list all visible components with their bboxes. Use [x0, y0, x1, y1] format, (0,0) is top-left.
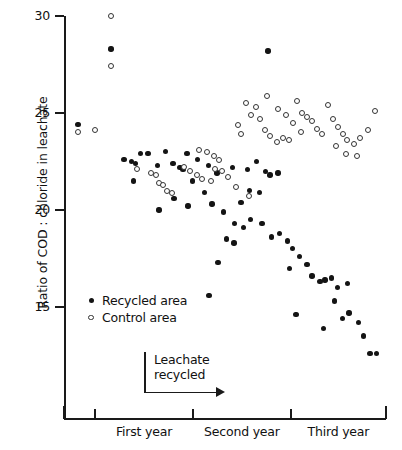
data-point-control	[264, 93, 270, 99]
data-point-recycled	[275, 170, 280, 175]
data-point-recycled	[304, 262, 309, 267]
data-point-control	[267, 133, 273, 139]
x-axis-tick	[63, 406, 65, 419]
data-point-recycled	[145, 151, 150, 156]
data-point-control	[225, 174, 231, 180]
data-point-recycled	[321, 326, 326, 331]
data-point-recycled	[180, 167, 185, 172]
data-point-control	[153, 172, 159, 178]
data-point-recycled	[335, 285, 340, 290]
data-point-control	[299, 110, 305, 116]
data-point-control	[309, 118, 315, 124]
data-point-control	[290, 120, 296, 126]
data-point-recycled	[245, 167, 250, 172]
data-point-control	[304, 114, 310, 120]
data-point-control	[325, 102, 331, 108]
legend-item: Control area	[84, 309, 187, 326]
y-axis-tick-label: 30	[34, 8, 50, 23]
data-point-recycled	[241, 225, 246, 230]
data-point-control	[212, 166, 218, 172]
data-point-recycled	[346, 310, 351, 315]
data-point-recycled	[356, 320, 361, 325]
data-point-control	[262, 127, 268, 133]
annotation-text: Leachate recycled	[154, 353, 210, 382]
data-point-recycled	[155, 163, 160, 168]
data-point-recycled	[329, 275, 334, 280]
data-point-control	[253, 104, 259, 110]
data-point-control	[194, 172, 200, 178]
data-point-recycled	[238, 200, 243, 205]
y-axis-tick	[55, 306, 64, 308]
data-point-recycled	[202, 190, 207, 195]
data-point-control	[233, 184, 239, 190]
x-axis-tick	[290, 409, 292, 419]
data-point-control	[181, 164, 187, 170]
data-point-control	[92, 127, 98, 133]
data-point-recycled	[290, 246, 295, 251]
data-point-recycled	[257, 190, 262, 195]
data-point-control	[314, 126, 320, 132]
data-point-recycled	[177, 165, 182, 170]
data-point-recycled	[156, 207, 161, 212]
data-point-control	[330, 116, 336, 122]
annotation-line-2: recycled	[154, 368, 210, 383]
data-point-control	[238, 131, 244, 137]
data-point-control	[243, 100, 249, 106]
filled-circle-icon	[84, 298, 98, 303]
data-point-recycled	[190, 178, 195, 183]
data-point-control	[344, 137, 350, 143]
data-point-recycled	[269, 234, 274, 239]
data-point-recycled	[309, 273, 314, 278]
x-axis-category-label: First year	[116, 424, 172, 439]
data-point-recycled	[170, 161, 175, 166]
data-point-control	[286, 137, 292, 143]
data-point-recycled	[138, 151, 143, 156]
data-point-control	[333, 143, 339, 149]
legend-item-label: Control area	[102, 310, 177, 325]
data-point-recycled	[131, 178, 136, 183]
data-point-control	[219, 168, 225, 174]
x-axis-tick	[192, 409, 194, 419]
annotation-line-1: Leachate	[154, 353, 210, 368]
y-axis-tick	[55, 112, 64, 114]
data-point-recycled	[322, 277, 327, 282]
arrow-right-icon	[216, 387, 225, 397]
data-point-recycled	[248, 217, 253, 222]
data-point-control	[246, 193, 252, 199]
data-point-control	[187, 168, 193, 174]
annotation-vertical-line	[144, 352, 146, 393]
data-point-recycled	[232, 221, 237, 226]
data-point-recycled	[265, 48, 270, 53]
data-point-recycled	[206, 163, 211, 168]
legend-item: Recycled area	[84, 292, 187, 309]
y-axis-tick	[55, 209, 64, 211]
data-point-control	[148, 170, 154, 176]
data-point-recycled	[297, 254, 302, 259]
x-axis-line	[64, 418, 386, 420]
data-point-control	[294, 98, 300, 104]
data-point-recycled	[129, 159, 134, 164]
data-point-recycled	[209, 201, 214, 206]
x-axis-tick	[385, 406, 387, 419]
data-point-recycled	[214, 170, 219, 175]
open-circle-icon	[84, 315, 98, 321]
data-point-recycled	[184, 151, 189, 156]
data-point-recycled	[108, 46, 113, 51]
data-point-recycled	[221, 209, 226, 214]
chart-legend: Recycled areaControl area	[84, 292, 187, 326]
data-point-recycled	[163, 149, 168, 154]
x-axis-category-label: Third year	[308, 424, 370, 439]
x-axis-tick	[94, 409, 96, 419]
data-point-control	[156, 180, 162, 186]
data-point-control	[354, 153, 360, 159]
x-axis-category-label: Second year	[204, 424, 280, 439]
data-point-recycled	[345, 281, 350, 286]
data-point-control	[275, 106, 281, 112]
data-point-recycled	[215, 260, 220, 265]
data-point-recycled	[247, 188, 252, 193]
data-point-recycled	[133, 161, 138, 166]
data-point-control	[196, 147, 202, 153]
data-point-control	[340, 131, 346, 137]
data-point-control	[343, 151, 349, 157]
data-point-recycled	[230, 165, 235, 170]
